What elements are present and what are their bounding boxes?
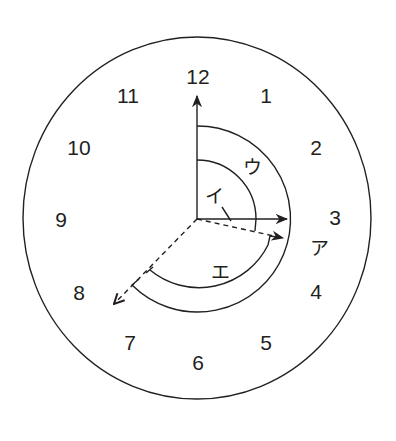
clock-number-1: 1 [260, 84, 272, 107]
angle-label-e: エ [211, 261, 230, 283]
angle-label-u: ウ [243, 156, 262, 178]
clock-number-5: 5 [260, 331, 272, 354]
clock-number-7: 7 [124, 331, 136, 354]
clock-number-3: 3 [329, 206, 341, 229]
clock-number-4: 4 [310, 280, 322, 303]
clock-number-9: 9 [55, 208, 67, 231]
angle-label-a: ア [310, 237, 329, 259]
clock-number-6: 6 [192, 351, 204, 374]
clock-number-11: 11 [117, 84, 139, 107]
dashed-ray-to-3-30 [197, 219, 283, 238]
clock-number-10: 10 [67, 136, 90, 159]
clock-number-8: 8 [73, 281, 85, 304]
angle-label-i: イ [205, 185, 224, 207]
clock-number-2: 2 [310, 136, 322, 159]
dashed-ray-to-8 [114, 219, 197, 304]
clock-diagram: 12 1 2 3 4 5 6 7 8 9 10 11 ア イ ウ エ [0, 0, 396, 441]
clock-svg: 12 1 2 3 4 5 6 7 8 9 10 11 ア イ ウ エ [0, 0, 396, 441]
clock-number-12: 12 [186, 65, 209, 88]
